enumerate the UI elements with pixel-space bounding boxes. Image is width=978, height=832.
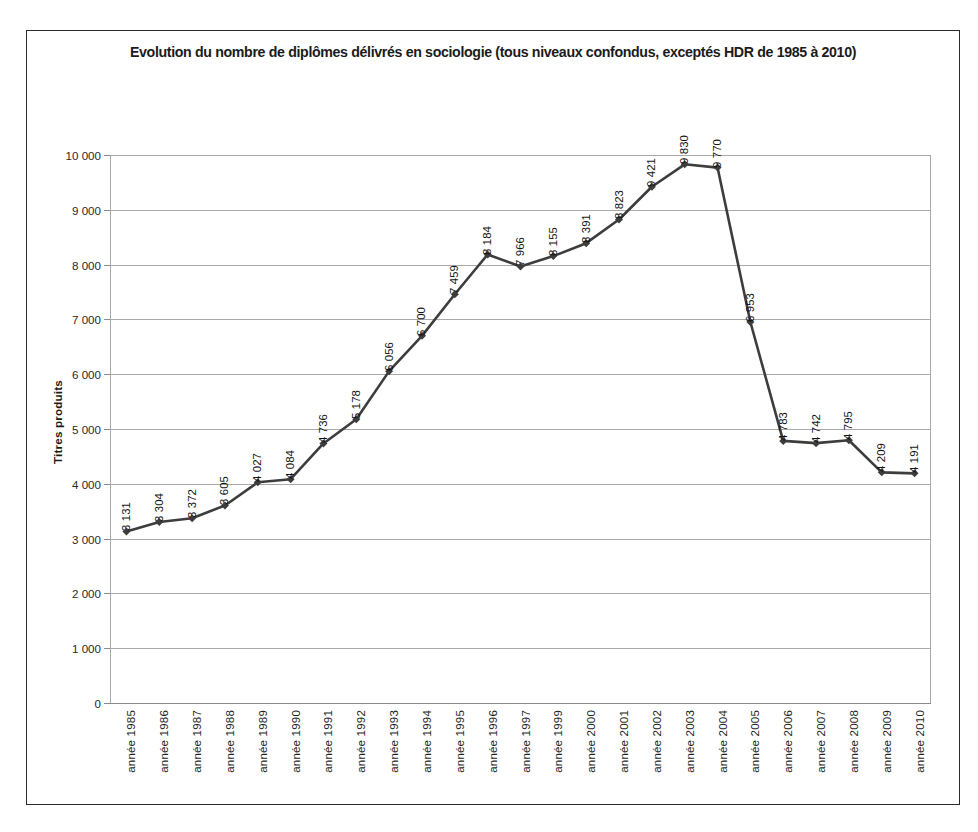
data-point-label: 7 459 (448, 265, 460, 294)
gridline (110, 703, 931, 704)
x-axis-tick-label: année 1985 (125, 710, 137, 773)
x-axis-tick-label: année 2009 (881, 710, 893, 773)
x-axis-tick-label: année 1987 (191, 710, 203, 773)
y-axis-tick-label: 6 000 (72, 368, 101, 381)
y-axis-tick (104, 703, 110, 704)
x-axis-tick-label: année 1992 (355, 710, 367, 773)
y-axis-tick-label: 5 000 (72, 423, 101, 436)
series-polyline (126, 164, 914, 531)
y-axis-tick-label: 9 000 (72, 203, 101, 216)
x-axis-tick-label: année 2001 (618, 710, 630, 773)
data-point-label: 4 027 (251, 453, 263, 482)
figure-canvas: Evolution du nombre de diplômes délivrés… (0, 0, 978, 832)
x-axis-tick-label: année 1990 (290, 710, 302, 773)
x-axis-tick-label: année 2010 (914, 710, 926, 773)
x-axis-tick-label: année 2008 (848, 710, 860, 773)
x-axis-tick-label: année 2000 (585, 710, 597, 773)
data-point-label: 4 795 (842, 411, 854, 440)
x-axis-tick-label: année 1994 (421, 710, 433, 773)
y-axis-title: Titres produits (51, 380, 64, 464)
y-axis-tick-label: 2 000 (72, 587, 101, 600)
data-point-label: 9 770 (711, 139, 723, 168)
y-axis-tick-label: 10 000 (66, 149, 101, 162)
x-axis-tick-label: année 1999 (552, 710, 564, 773)
chart-title: Evolution du nombre de diplômes délivrés… (40, 44, 946, 60)
x-axis-tick-label: année 2005 (749, 710, 761, 773)
y-axis-tick-label: 7 000 (72, 313, 101, 326)
x-axis-tick-label: année 1996 (487, 710, 499, 773)
x-axis-tick-label: année 1995 (454, 710, 466, 773)
data-point-label: 3 372 (186, 489, 198, 518)
data-point-label: 4 084 (284, 450, 296, 479)
y-axis-tick-label: 4 000 (72, 477, 101, 490)
x-axis-tick-label: année 1991 (322, 710, 334, 773)
x-axis-tick-label: année 2004 (717, 710, 729, 773)
data-point-label: 8 155 (547, 227, 559, 256)
series-markers (122, 160, 918, 535)
data-point-label: 6 953 (744, 293, 756, 322)
x-axis-tick-label: année 1988 (224, 710, 236, 773)
x-axis-tick-label: année 2007 (815, 710, 827, 773)
x-axis-tick-label: année 1993 (388, 710, 400, 773)
data-point-label: 8 391 (580, 214, 592, 243)
data-point-label: 6 700 (415, 307, 427, 336)
x-axis-tick-label: année 2003 (684, 710, 696, 773)
data-point-label: 4 783 (777, 412, 789, 441)
x-axis-tick-label: année 1989 (257, 710, 269, 773)
data-point-label: 4 736 (317, 414, 329, 443)
data-point-label: 3 304 (153, 493, 165, 522)
data-point-label: 3 131 (120, 502, 132, 531)
y-axis-tick-label: 0 (95, 697, 101, 710)
x-axis-tick-label: année 2006 (782, 710, 794, 773)
plot-area: 10 0009 0008 0007 0006 0005 0004 0003 00… (110, 155, 931, 703)
y-axis-tick-label: 1 000 (72, 642, 101, 655)
data-point-label: 3 605 (218, 476, 230, 505)
data-point-label: 8 184 (481, 226, 493, 255)
data-point-label: 6 056 (383, 342, 395, 371)
data-point-label: 7 966 (514, 237, 526, 266)
data-point-label: 9 421 (645, 158, 657, 187)
x-axis-tick-label: année 2002 (651, 710, 663, 773)
data-point-label: 4 191 (908, 444, 920, 473)
y-axis-tick-label: 3 000 (72, 532, 101, 545)
data-point-label: 9 830 (678, 135, 690, 164)
y-axis-tick-label: 8 000 (72, 258, 101, 271)
data-point-label: 4 742 (810, 414, 822, 443)
data-point-label: 5 178 (350, 390, 362, 419)
x-axis-tick-label: année 1986 (158, 710, 170, 773)
data-point-label: 4 209 (875, 443, 887, 472)
x-axis-tick-label: année 1997 (520, 710, 532, 773)
data-point-label: 8 823 (613, 190, 625, 219)
